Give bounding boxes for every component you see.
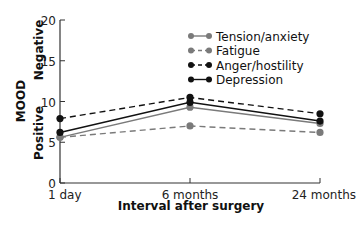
legend-item: Tension/anxiety [188, 30, 309, 44]
data-point [316, 110, 323, 117]
y-axis-title: MOOD [14, 80, 28, 122]
y-annotation-negative: Negative [32, 20, 46, 81]
legend-item: Anger/hostility [188, 59, 304, 73]
series-line [60, 107, 320, 137]
x-tick-label: 24 months [292, 188, 356, 202]
data-point [56, 115, 63, 122]
y-tick-label: 5 [48, 136, 56, 150]
legend-label: Fatigue [216, 44, 260, 58]
legend-item: Depression [188, 73, 283, 87]
data-point [56, 129, 63, 136]
legend-item: Fatigue [188, 44, 260, 58]
x-tick-label: 1 day [48, 188, 82, 202]
data-point [316, 129, 323, 136]
data-point [186, 122, 193, 129]
data-point [316, 117, 323, 124]
y-annotation-positive: Positive [32, 106, 46, 160]
legend: Tension/anxietyFatigueAnger/hostilityDep… [188, 30, 309, 88]
data-point [186, 99, 193, 106]
x-axis-title: Interval after surgery [118, 199, 265, 213]
mood-line-chart: 051015201 day6 months24 months Tension/a… [0, 0, 357, 227]
legend-label: Anger/hostility [216, 59, 304, 73]
series-lines [56, 94, 323, 141]
legend-label: Tension/anxiety [215, 30, 309, 44]
legend-label: Depression [216, 73, 283, 87]
